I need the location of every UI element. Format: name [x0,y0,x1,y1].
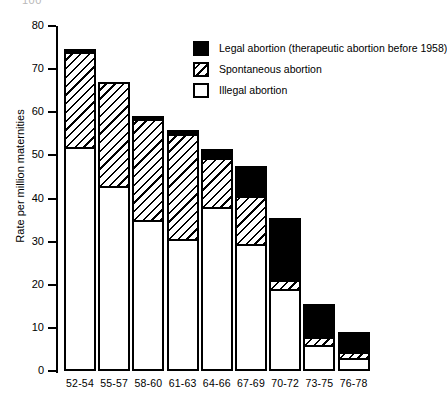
bar-segment-hatched [269,280,301,289]
bar-segment-white [167,239,199,371]
legend-label: Illegal abortion [219,84,287,96]
bar-61-63 [167,130,199,372]
bar-70-72 [269,218,301,371]
y-axis-label: Rate per million maternities [14,101,26,251]
bar-segment-white [235,244,267,371]
x-axis-label-76-78: 76-78 [331,377,377,389]
legend-swatch-black [193,41,209,56]
bar-52-54 [64,49,96,371]
bar-64-66 [201,149,233,371]
bar-55-57 [98,82,130,371]
y-axis-tick-label: 30 [14,236,44,247]
bar-segment-white [98,186,130,371]
bar-segment-black [269,218,301,281]
bar-67-69 [235,166,267,371]
y-axis-tick-label: 40 [14,193,44,204]
y-axis-tick [48,154,56,156]
bar-segment-hatched [235,196,267,243]
bar-segment-black [201,149,233,158]
y-axis-tick-label: 0 [14,365,44,376]
legend-label: Spontaneous abortion [219,63,322,75]
bar-segment-black [338,332,370,351]
bar-segment-hatched [98,82,130,186]
bar-73-75 [303,304,335,371]
legend-swatch-hatched [193,62,209,77]
bar-segment-white [132,220,164,371]
bar-segment-hatched [303,337,335,346]
bar-segment-white [269,289,301,371]
bar-58-60 [132,116,164,371]
bar-segment-white [303,345,335,371]
bar-segment-hatched [132,119,164,220]
y-axis-tick-label: 20 [14,279,44,290]
bar-segment-hatched [64,52,96,147]
y-axis-tick [48,241,56,243]
bar-segment-white [338,358,370,371]
legend-label: Legal abortion (therapeutic abortion bef… [219,42,447,54]
y-axis-line [56,26,58,373]
y-axis-tick [48,25,56,27]
y-axis-tick [48,370,56,372]
y-axis-tick-label: 50 [14,149,44,160]
bar-segment-hatched [201,158,233,208]
bar-segment-white [201,207,233,371]
y-axis-tick-label: 60 [14,106,44,117]
y-axis-tick [48,198,56,200]
bar-segment-black [235,166,267,196]
bar-76-78 [338,332,370,371]
y-axis-tick [48,284,56,286]
y-axis-tick-label: 70 [14,63,44,74]
bar-segment-white [64,147,96,371]
y-axis-tick [48,327,56,329]
y-axis-tick-label: 10 [14,322,44,333]
bar-segment-hatched [167,134,199,240]
y-axis-tick-label: 80 [14,20,44,31]
bar-segment-black [303,304,335,336]
y-axis-tick [48,68,56,70]
y-axis-tick [48,111,56,113]
legend-swatch-white [193,83,209,98]
cut-off-artifact-label: 100 [22,0,42,6]
